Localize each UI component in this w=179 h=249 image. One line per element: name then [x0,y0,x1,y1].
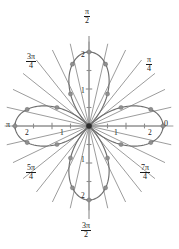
angle-label-3pi-over-4: 3π 4 [26,53,36,71]
angle-label-7pi-over-4-denominator: 4 [140,173,150,181]
radial-tick-label-left-2: 2 [25,129,29,137]
radial-line [13,89,88,125]
sample-point [119,105,123,109]
sample-point [25,107,29,111]
sample-point [87,50,91,54]
sample-point [25,140,29,144]
sample-point [149,140,153,144]
radial-tick-label-right-2: 2 [148,129,152,137]
angle-label-pi-over-4-denominator: 4 [146,65,152,73]
angle-label-5pi-over-4: 5π 4 [26,164,36,182]
sample-point [105,92,109,96]
radial-tick-label-top-2: 2 [81,51,85,59]
sample-point [149,107,153,111]
sample-point [87,198,91,202]
radial-tick-label-bottom-2: 2 [81,192,85,200]
angle-label-pi-over-4: π 4 [146,56,152,74]
angle-label-3pi-over-4-denominator: 4 [26,62,36,70]
sample-point [103,62,107,66]
polar-plot-canvas [0,0,179,249]
angle-label-pi-over-2-denominator: 2 [84,17,90,25]
radial-tick-label-right-1: 1 [114,129,118,137]
sample-point [103,186,107,190]
sample-point [68,156,72,160]
radial-line [90,89,165,125]
radial-tick-label-left-1: 1 [60,129,64,137]
radial-line [89,127,125,202]
radial-line [90,126,165,162]
angle-label-pi-over-2: π 2 [84,8,90,26]
angle-label-7pi-over-4: 7π 4 [140,164,150,182]
sample-point [70,62,74,66]
angle-label-5pi-over-4-denominator: 4 [26,173,36,181]
sample-point [119,142,123,146]
sample-point [68,92,72,96]
sample-point [105,156,109,160]
radial-tick-label-bottom-1: 1 [81,156,85,164]
radial-line [89,50,125,125]
angle-label-3pi-over-2: 3π 2 [81,222,91,240]
sample-point [13,124,17,128]
origin-marker [86,123,92,129]
sample-point [70,186,74,190]
polar-plot-figure: 0 π 4 π 2 3π 4 π 5π 4 3π 2 7π 4 [0,0,179,249]
radial-tick-label-top-1: 1 [81,87,85,95]
angle-label-0: 0 [164,120,168,128]
sample-point [55,105,59,109]
sample-point [55,142,59,146]
angle-label-pi: π [6,121,10,129]
angle-label-3pi-over-2-denominator: 2 [81,231,91,239]
